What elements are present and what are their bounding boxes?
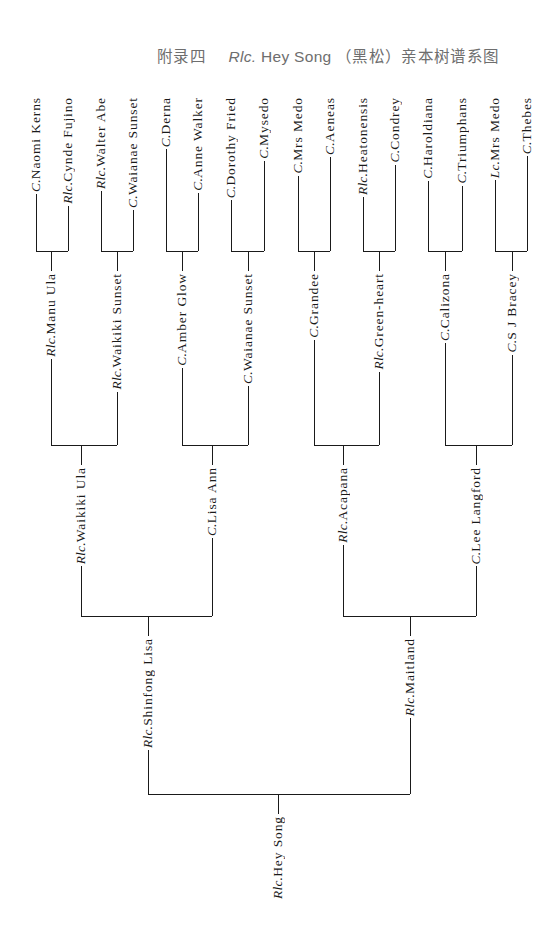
- leaf-node: C.Derna: [158, 95, 174, 251]
- parent-node: C.S J Bracey: [504, 251, 520, 445]
- leaf-node: C.Anne Walker: [190, 95, 206, 251]
- parent-node: Rlc.Acapana: [335, 445, 351, 616]
- node-label: C.Waianae Sunset: [240, 271, 256, 386]
- connector-stub: [248, 251, 249, 271]
- connector-line: [410, 718, 411, 794]
- node-label: C.Dorothy Fried: [223, 95, 239, 200]
- connector-stub: [212, 445, 213, 465]
- leaf-node: C.Mrs Medo: [290, 95, 306, 251]
- node-label: C.Condrey: [387, 95, 403, 165]
- parent-node: Rlc.Manu Ula: [43, 251, 59, 445]
- leaf-node: C.Naomi Kerns: [28, 95, 44, 251]
- connector-line: [445, 343, 446, 445]
- connector-line: [379, 372, 380, 445]
- node-label: Rlc.Walter Abe: [93, 95, 109, 191]
- parent-node: Rlc.Green-heart: [371, 251, 387, 445]
- connector-stub: [182, 251, 183, 271]
- node-label: C.Mrs Medo: [290, 95, 306, 176]
- root-node: Rlc.Hey Song: [270, 794, 286, 912]
- connector-line: [395, 165, 396, 251]
- connector-line: [117, 392, 118, 445]
- title-suffix: （黑松）亲本树谱系图: [336, 48, 499, 65]
- node-label: C.Lisa Ann: [204, 465, 220, 538]
- connector-line: [495, 180, 496, 251]
- connector-line: [101, 191, 102, 251]
- parent-node: C.Grandee: [306, 251, 322, 445]
- connector-stub: [51, 251, 52, 271]
- root-label: Rlc.Hey Song: [270, 814, 286, 901]
- connector-line: [198, 193, 199, 251]
- node-label: C.Thebes: [519, 95, 535, 156]
- title-genus: Rlc.: [229, 48, 257, 65]
- leaf-node: Lc.Mrs Medo: [487, 95, 503, 251]
- parent-node: Rlc.Shinfong Lisa: [140, 616, 156, 794]
- parent-node: C.Lee Langford: [468, 445, 484, 616]
- leaf-node: C.Mysedo: [256, 95, 272, 251]
- node-label: Rlc.Green-heart: [371, 271, 387, 372]
- node-label: C.Mysedo: [256, 95, 272, 161]
- node-label: C.Aeneas: [322, 95, 338, 157]
- node-label: C.Lee Langford: [468, 465, 484, 566]
- node-label: C.Grandee: [306, 271, 322, 340]
- node-label: C.Waianae Sunset: [125, 95, 141, 210]
- connector-line: [212, 538, 213, 616]
- parent-node: C.Amber Glow: [174, 251, 190, 445]
- connector-line: [476, 566, 477, 616]
- connector-line: [330, 157, 331, 251]
- title-name: Hey Song: [261, 48, 331, 65]
- node-label: Rlc.Manu Ula: [43, 271, 59, 359]
- connector-stub: [379, 251, 380, 271]
- node-label: Rlc.Maitland: [402, 636, 418, 718]
- connector-line: [148, 750, 149, 794]
- parent-node: Rlc.Waikiki Ula: [73, 445, 89, 616]
- node-label: C.Haroldiana: [420, 95, 436, 181]
- leaf-node: Rlc.Cynde Fujino: [60, 95, 76, 251]
- connector-stub: [314, 251, 315, 271]
- connector-line: [68, 206, 69, 251]
- connector-line: [462, 186, 463, 251]
- node-label: C.Triumphans: [454, 95, 470, 186]
- node-label: Rlc.Shinfong Lisa: [140, 636, 156, 750]
- node-label: Rlc.Acapana: [335, 465, 351, 545]
- connector-line: [428, 181, 429, 251]
- node-label: C.Calizona: [437, 271, 453, 343]
- connector-line: [363, 197, 364, 251]
- node-label: C.Amber Glow: [174, 271, 190, 368]
- page-title: 附录四 Rlc. Hey Song （黑松）亲本树谱系图: [157, 44, 517, 66]
- parent-node: C.Waianae Sunset: [240, 251, 256, 445]
- connector-stub: [148, 616, 149, 636]
- connector-stub: [343, 445, 344, 465]
- connector-stub: [410, 616, 411, 636]
- leaf-node: C.Haroldiana: [420, 95, 436, 251]
- connector-line: [51, 359, 52, 445]
- node-label: C.Derna: [158, 95, 174, 149]
- parent-node: Rlc.Maitland: [402, 616, 418, 794]
- connector-line: [36, 194, 37, 251]
- parent-node: C.Lisa Ann: [204, 445, 220, 616]
- leaf-node: C.Waianae Sunset: [125, 95, 141, 251]
- leaf-node: C.Dorothy Fried: [223, 95, 239, 251]
- connector-line: [264, 161, 265, 251]
- parent-node: C.Calizona: [437, 251, 453, 445]
- connector-line: [81, 566, 82, 616]
- connector-line: [133, 210, 134, 251]
- connector-line: [166, 149, 167, 251]
- node-label: Rlc.Cynde Fujino: [60, 95, 76, 206]
- leaf-node: C.Triumphans: [454, 95, 470, 251]
- connector-line: [298, 176, 299, 251]
- connector-line: [248, 386, 249, 445]
- connector-line: [231, 200, 232, 251]
- node-label: Rlc.Waikiki Ula: [73, 465, 89, 566]
- connector-line: [512, 355, 513, 445]
- leaf-node: C.Aeneas: [322, 95, 338, 251]
- connector-stub: [476, 445, 477, 465]
- connector-line: [182, 368, 183, 445]
- node-label: C.Naomi Kerns: [28, 95, 44, 194]
- connector-stub: [278, 794, 279, 814]
- connector-line: [527, 156, 528, 251]
- leaf-node: Rlc.Walter Abe: [93, 95, 109, 251]
- connector-stub: [512, 251, 513, 271]
- node-label: Rlc.Heatonensis: [355, 95, 371, 197]
- leaf-node: C.Thebes: [519, 95, 535, 251]
- node-label: Rlc.Waikiki Sunset: [109, 271, 125, 392]
